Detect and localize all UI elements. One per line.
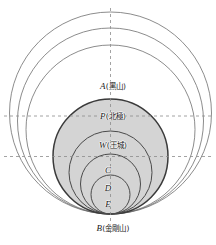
label-point-a: A(黑山): [100, 82, 126, 91]
label-point-w-symbol: W: [99, 140, 107, 150]
label-point-c: C: [105, 166, 111, 175]
label-point-e: E: [105, 200, 111, 209]
label-point-b-annotation: (金剛山): [102, 224, 129, 233]
label-point-p-annotation: (北極): [106, 112, 126, 121]
figure-container: A(黑山) P(北極) W(王城) C D E B(金剛山): [0, 0, 216, 245]
label-point-b: B(金剛山): [97, 224, 130, 233]
label-point-p: P(北極): [100, 112, 126, 121]
label-point-w-annotation: (王城): [107, 141, 127, 150]
label-point-d: D: [105, 184, 112, 193]
label-point-a-annotation: (黑山): [106, 82, 126, 91]
label-point-w: W(王城): [99, 141, 127, 150]
